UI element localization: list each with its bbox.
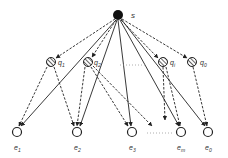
middle-node-q0: q0 [188, 58, 207, 69]
bottom-node-e0: e0 [204, 128, 213, 154]
source-node-s: s [113, 10, 135, 20]
svg-text:e1: e1 [14, 144, 21, 153]
bottom-node-e1: e1 [13, 128, 22, 154]
qi-sub: i [174, 62, 176, 68]
flow-diagram: s q1 q2 qi q0 e1 e2 e3 em e0 [0, 0, 228, 158]
svg-text:qi: qi [170, 59, 176, 68]
e2-sub: 2 [77, 147, 81, 153]
svg-text:q1: q1 [58, 59, 65, 68]
middle-node-q1: q1 [47, 58, 65, 69]
svg-text:e2: e2 [74, 144, 81, 153]
middle-node-q2: q2 [84, 58, 101, 69]
source-label: s [131, 11, 135, 20]
bottom-node-e3: e3 [128, 128, 137, 154]
q1-sub: 1 [62, 62, 65, 68]
source-to-bottom-edges [21, 19, 205, 126]
em-sub: m [181, 147, 185, 153]
e3-sub: 3 [133, 147, 136, 153]
svg-text:q0: q0 [200, 59, 207, 68]
e0-sub: 0 [209, 147, 212, 153]
svg-text:em: em [177, 144, 185, 153]
svg-text:q2: q2 [94, 59, 101, 68]
middle-to-bottom-edges [19, 66, 207, 126]
bottom-node-e2: e2 [73, 128, 82, 154]
svg-text:e0: e0 [205, 144, 212, 153]
svg-text:e3: e3 [129, 144, 136, 153]
q0-sub: 0 [204, 62, 207, 68]
e1-sub: 1 [18, 147, 21, 153]
bottom-node-em: em [177, 128, 186, 154]
q2-sub: 2 [97, 62, 101, 68]
middle-node-qi: qi [159, 58, 176, 69]
